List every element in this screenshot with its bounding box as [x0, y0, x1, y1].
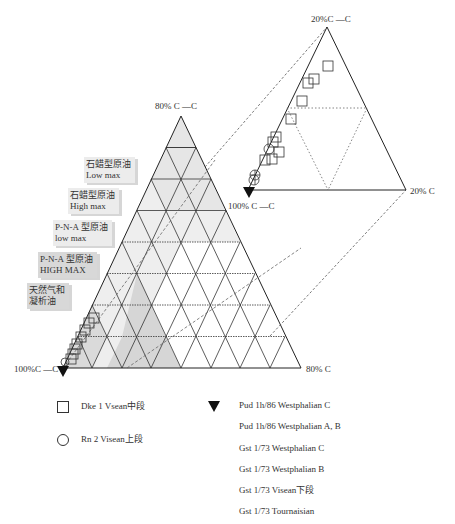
legend-item-rn2: Rn 2 Visean上段: [81, 434, 143, 445]
inset-data-points: [249, 61, 333, 185]
zone-label-paraffinic-high-max: 石蜡型原油 High max: [68, 188, 119, 214]
legend-item-pud-wab: Pud 1h/86 Westphalian A, B: [239, 421, 341, 432]
zone-label-pna-low-max: P-N-A 型原油 low max: [53, 220, 112, 246]
circle-symbol-icon: [57, 434, 69, 446]
inset-apex-label: 20%C —C: [311, 14, 351, 25]
legend-item-gst-wc: Gst 1/73 Westphalian C: [239, 443, 324, 454]
main-apex-label: 80% C —C: [155, 101, 197, 112]
inset-triangle-outline: [248, 27, 406, 190]
projection-lines: [205, 27, 406, 336]
filled-triangle-symbol-icon: [208, 401, 220, 412]
inset-left-label: 100% C —C: [228, 201, 275, 212]
zone-label-pna-high-max: P-N-A 型原油 HIGH MAX: [38, 252, 97, 278]
inset-dotted-lines: [287, 108, 367, 190]
inset-triangle-marker: [243, 187, 255, 198]
zone-label-gas-condensate: 天然气和 凝析油: [27, 283, 69, 309]
legend-item-gst-wb: Gst 1/73 Westphalian B: [239, 464, 324, 475]
zone-label-paraffinic-low-max: 石蜡型原油 Low max: [84, 157, 135, 183]
main-left-label: 100%C —C: [14, 364, 58, 375]
square-symbol-icon: [57, 401, 69, 413]
legend-item-dke1: Dke 1 Vsean中段: [81, 401, 145, 412]
legend-item-gst-tournaisian: Gst 1/73 Tournaisian: [239, 506, 314, 517]
main-right-label: 80% C: [306, 364, 331, 375]
inset-right-label: 20% C: [410, 186, 435, 197]
legend-item-pud-wc: Pud 1h/86 Westphalian C: [239, 400, 330, 411]
main-triangle-marker: [57, 366, 69, 377]
legend-item-gst-visean: Gst 1/73 Visean下段: [239, 485, 314, 496]
